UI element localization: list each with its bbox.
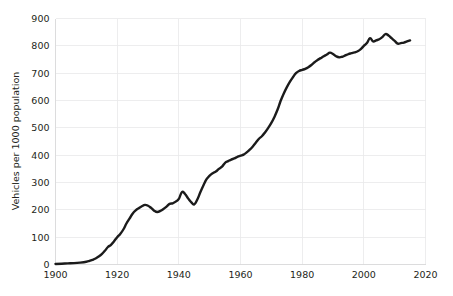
y-tick-label: 600	[31, 95, 49, 106]
series-line-vehicles-per-1000-population	[56, 34, 411, 264]
y-axis-title: Vehicles per 1000 population	[10, 72, 21, 211]
x-tick-label: 1960	[228, 269, 252, 280]
y-tick-label: 400	[31, 150, 49, 161]
y-axis-title-group: Vehicles per 1000 population	[10, 72, 21, 211]
y-tick-label: 700	[31, 68, 49, 79]
y-tick-label: 100	[31, 232, 49, 243]
x-tick-label: 1980	[290, 269, 314, 280]
x-tick-label: 2020	[413, 269, 437, 280]
y-tick-label: 900	[31, 13, 49, 24]
grid-group	[56, 19, 426, 265]
y-tick-label: 200	[31, 204, 49, 215]
x-tick-label: 1920	[105, 269, 129, 280]
x-tick-label: 1900	[43, 269, 67, 280]
line-chart: 0100200300400500600700800900 19001920194…	[0, 0, 453, 296]
series-group	[56, 34, 411, 264]
chart-container: 0100200300400500600700800900 19001920194…	[0, 0, 453, 296]
y-tick-labels: 0100200300400500600700800900	[31, 13, 49, 270]
y-tick-label: 500	[31, 122, 49, 133]
y-tick-label: 300	[31, 177, 49, 188]
x-tick-label: 2000	[352, 269, 376, 280]
y-tick-label: 800	[31, 40, 49, 51]
x-tick-labels: 1900192019401960198020002020	[43, 269, 437, 280]
x-tick-label: 1940	[167, 269, 191, 280]
